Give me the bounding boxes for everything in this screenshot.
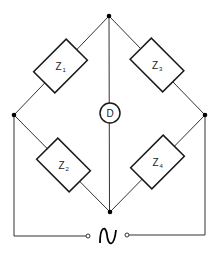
terminal-right-icon (125, 233, 129, 237)
detector-label: D (107, 108, 114, 119)
impedance-z4: Z 4 (131, 135, 185, 189)
node-right-icon (203, 113, 208, 118)
z4-label: Z (153, 157, 159, 168)
node-left-icon (12, 113, 17, 118)
node-top-icon (107, 14, 112, 19)
bridge-circuit-diagram: Z 1 Z 3 Z 2 Z 4 D (0, 0, 219, 258)
z2-label: Z (59, 160, 65, 171)
node-bottom-icon (108, 210, 113, 215)
z1-label: Z (56, 61, 62, 72)
detector: D (100, 103, 120, 123)
terminal-left-icon (86, 234, 90, 238)
z3-label: Z (152, 60, 158, 71)
wires (14, 16, 205, 236)
ac-source-icon (100, 229, 116, 244)
